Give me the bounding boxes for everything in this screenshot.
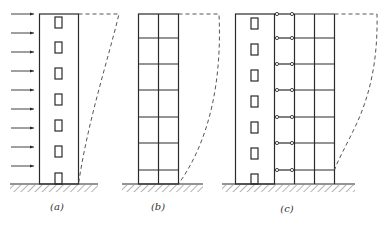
wall-openings <box>55 17 62 184</box>
window-icon <box>251 96 258 107</box>
window-icon <box>55 68 62 79</box>
hinge-icon <box>275 141 278 144</box>
ground-hatch <box>10 185 98 192</box>
panel-a-shear-wall: (a) <box>10 14 119 212</box>
pinned-links <box>275 12 295 171</box>
deflected-shape-combined <box>335 14 378 170</box>
deflected-shape-bending <box>79 14 120 184</box>
lateral-load-arrows <box>11 14 34 166</box>
shear-wall <box>40 14 79 184</box>
hinge-icon <box>290 62 293 65</box>
window-icon <box>251 148 258 159</box>
hinge-icon <box>290 88 293 91</box>
hinge-icon <box>275 115 278 118</box>
hinge-icon <box>290 115 293 118</box>
hinge-icon <box>290 36 293 39</box>
caption-c: (c) <box>280 203 294 214</box>
window-icon <box>251 18 258 29</box>
window-icon <box>55 17 62 28</box>
window-icon <box>251 70 258 81</box>
window-icon <box>55 146 62 157</box>
caption-a: (a) <box>50 201 64 212</box>
hinge-icon <box>290 12 293 15</box>
panel-b-frame: (b) <box>122 14 219 212</box>
hinge-icon <box>275 88 278 91</box>
hinge-icon <box>275 36 278 39</box>
hinge-icon <box>290 168 293 171</box>
panel-c-frame-shear-wall: (c) <box>222 12 377 214</box>
structural-deformation-diagram: (a) (b) <box>0 0 385 225</box>
window-icon <box>55 42 62 53</box>
hinge-icon <box>275 62 278 65</box>
deflected-shape-shear <box>179 14 220 184</box>
window-icon <box>55 120 62 131</box>
hinge-icon <box>290 141 293 144</box>
door-icon <box>55 173 62 184</box>
door-icon <box>251 174 258 184</box>
window-icon <box>251 44 258 55</box>
wall-openings <box>251 18 258 184</box>
ground-hatch <box>222 185 355 192</box>
caption-b: (b) <box>151 201 165 212</box>
window-icon <box>55 94 62 105</box>
window-icon <box>251 122 258 133</box>
hinge-icon <box>275 12 278 15</box>
ground-hatch <box>122 185 203 192</box>
hinge-icon <box>275 168 278 171</box>
